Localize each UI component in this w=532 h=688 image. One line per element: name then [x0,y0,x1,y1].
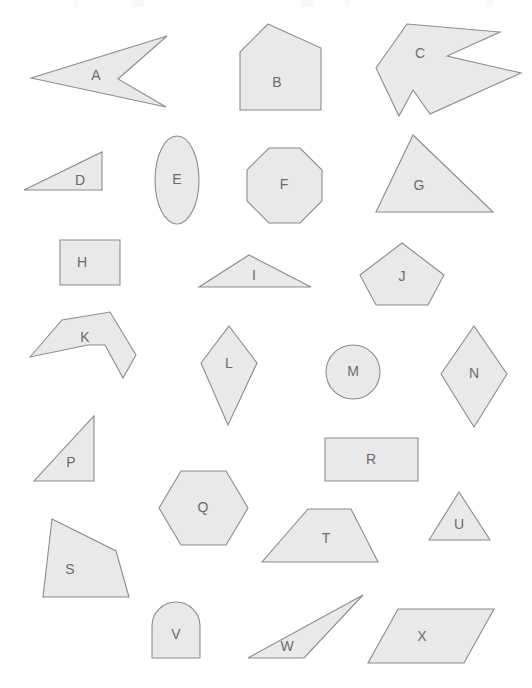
shape-label-c: C [415,45,425,61]
shape-label-n: N [469,365,479,381]
shape-s[interactable]: S [43,519,129,597]
shape-v[interactable]: V [152,602,200,658]
shape-outline-s[interactable] [43,519,129,597]
shape-outline-l[interactable] [201,326,257,425]
shape-p[interactable]: P [34,416,94,481]
shape-label-p: P [66,454,75,470]
shape-label-l: L [225,355,233,371]
shape-k[interactable]: K [30,312,136,378]
shape-c[interactable]: C [376,24,521,116]
shape-label-e: E [172,171,181,187]
shape-label-g: G [414,177,425,193]
shape-label-a: A [91,67,101,83]
shape-label-u: U [454,516,464,532]
shape-m[interactable]: M [326,345,380,399]
shape-label-i: I [252,267,256,283]
shape-label-x: X [417,628,427,644]
shape-label-t: T [322,530,331,546]
shapes-canvas-container: ABCDEFGHIJKLMNPQRSTUVWX [0,0,532,688]
shape-l[interactable]: L [201,326,257,425]
shape-outline-k[interactable] [30,312,136,378]
shape-b[interactable]: B [240,24,321,110]
shape-outline-b[interactable] [240,24,321,110]
shape-x[interactable]: X [368,609,494,663]
shape-n[interactable]: N [441,326,507,427]
shape-w[interactable]: W [248,595,363,658]
shape-t[interactable]: T [262,509,378,562]
shape-label-r: R [366,451,376,467]
shape-label-m: M [347,363,359,379]
shape-q[interactable]: Q [159,471,248,545]
shape-r[interactable]: R [325,438,418,481]
shape-outline-d[interactable] [24,152,102,190]
shape-f[interactable]: F [247,148,322,223]
shape-outline-g[interactable] [376,135,493,212]
shape-label-s: S [65,561,74,577]
shape-outline-c[interactable] [376,24,521,116]
shape-label-d: D [75,172,85,188]
shape-a[interactable]: A [31,36,167,107]
shape-label-b: B [272,74,281,90]
shape-outline-w[interactable] [248,595,363,658]
shape-outline-x[interactable] [368,609,494,663]
shape-e[interactable]: E [155,136,199,224]
shape-label-w: W [280,638,294,654]
shape-g[interactable]: G [376,135,493,212]
shape-outline-p[interactable] [34,416,94,481]
shape-d[interactable]: D [24,152,102,190]
shape-h[interactable]: H [60,240,120,285]
shape-label-k: K [80,329,90,345]
shape-j[interactable]: J [360,243,444,305]
shape-label-f: F [280,176,289,192]
shape-u[interactable]: U [429,492,490,540]
shape-i[interactable]: I [199,255,311,287]
shape-label-q: Q [198,499,209,515]
shape-outline-t[interactable] [262,509,378,562]
shape-label-j: J [399,268,406,284]
shapes-diagram: ABCDEFGHIJKLMNPQRSTUVWX [0,0,532,688]
shape-outline-h[interactable] [60,240,120,285]
shape-label-v: V [171,626,181,642]
shape-label-h: H [77,254,87,270]
